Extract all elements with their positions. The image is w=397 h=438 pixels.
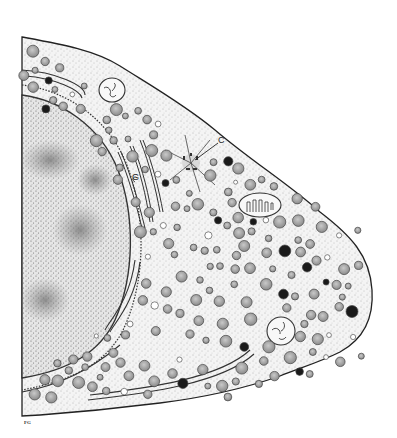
golgi-label: G xyxy=(132,172,139,182)
mitochondrion xyxy=(99,78,125,102)
centriole-label: C xyxy=(218,135,225,145)
artist-signature: FG xyxy=(24,420,31,425)
mitochondrion xyxy=(239,193,281,217)
cell-illustration: G C FG xyxy=(0,0,397,438)
